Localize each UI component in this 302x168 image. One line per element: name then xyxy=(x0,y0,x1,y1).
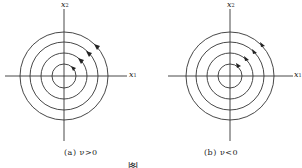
arrow-icon xyxy=(236,63,241,68)
panel-b-caption: (b) ν<0 xyxy=(204,149,238,157)
panel-a-diagram xyxy=(5,9,127,141)
figure-caption-clipped: 图 ... xyxy=(128,162,178,168)
panel-b-diagram xyxy=(168,9,293,141)
arrow-icon xyxy=(71,66,76,71)
arrow-icon xyxy=(260,42,265,47)
arrow-icon xyxy=(252,49,257,54)
panel-a-caption: (a) ν>0 xyxy=(64,149,98,157)
panel-a-x2-label: x2 xyxy=(61,1,69,9)
arrow-icon xyxy=(244,56,249,61)
phase-portraits xyxy=(0,0,302,168)
panel-a-x1-label: x1 xyxy=(129,71,137,79)
panel-b-x2-label: x2 xyxy=(227,1,235,9)
panel-b-x1-label: x1 xyxy=(294,71,302,79)
